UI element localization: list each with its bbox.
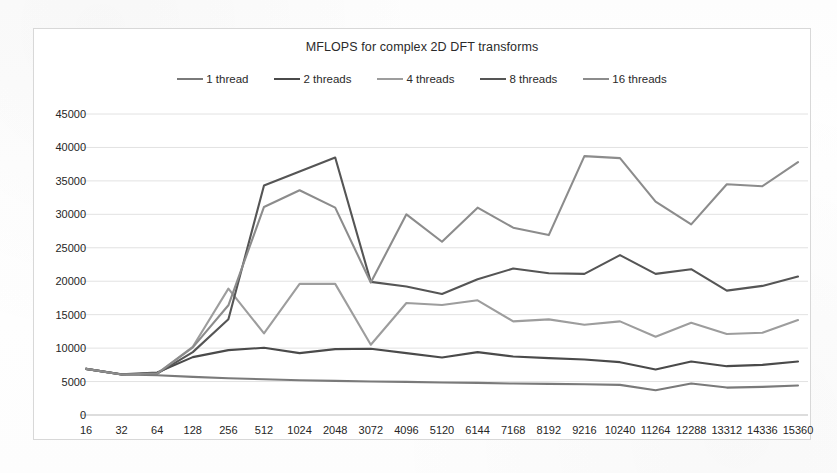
x-tick-label: 12288	[676, 424, 707, 436]
x-tick-label: 128	[184, 424, 202, 436]
x-tick-label: 14336	[747, 424, 778, 436]
x-tick-label: 256	[219, 424, 237, 436]
x-tick-label: 32	[115, 424, 127, 436]
x-axis-ticks: 1632641282565121024204830724096512061447…	[34, 29, 812, 441]
x-tick-label: 64	[151, 424, 163, 436]
x-tick-label: 9216	[572, 424, 596, 436]
x-tick-label: 11264	[641, 424, 671, 436]
x-tick-label: 2048	[323, 424, 347, 436]
plot-area: 0500010000150002000025000300003500040000…	[34, 29, 812, 441]
x-tick-label: 7168	[501, 424, 525, 436]
chart-container: MFLOPS for complex 2D DFT transforms 1 t…	[33, 28, 811, 440]
x-tick-label: 6144	[465, 424, 489, 436]
x-tick-label: 10240	[605, 424, 636, 436]
x-tick-label: 8192	[537, 424, 561, 436]
x-tick-label: 3072	[359, 424, 383, 436]
x-tick-label: 5120	[430, 424, 454, 436]
x-tick-label: 16	[80, 424, 92, 436]
x-tick-label: 512	[255, 424, 273, 436]
x-tick-label: 15360	[783, 424, 814, 436]
x-tick-label: 1024	[287, 424, 311, 436]
x-tick-label: 13312	[712, 424, 743, 436]
x-tick-label: 4096	[394, 424, 418, 436]
